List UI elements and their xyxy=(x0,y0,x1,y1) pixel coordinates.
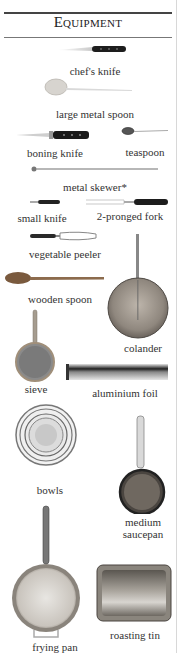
two-pronged-fork-icon xyxy=(84,197,170,207)
bowls-icon xyxy=(14,403,78,467)
roasting-tin-icon xyxy=(96,564,172,622)
label-frying-pan: frying pan xyxy=(25,641,85,653)
label-sieve: sieve xyxy=(20,383,52,395)
label-bowls: bowls xyxy=(30,484,70,496)
label-boning-knife: boning knife xyxy=(20,147,90,159)
label-colander: colander xyxy=(115,342,171,354)
label-two-pronged-fork: 2-pronged fork xyxy=(90,210,170,222)
sieve-icon xyxy=(14,308,56,383)
boning-knife-icon xyxy=(14,129,90,141)
label-teaspoon: teaspoon xyxy=(120,146,170,158)
label-roasting-tin: roasting tin xyxy=(100,629,170,641)
vegetable-peeler-icon xyxy=(30,231,100,241)
label-vegetable-peeler: vegetable peeler xyxy=(20,248,110,260)
chefs-knife-icon xyxy=(55,44,127,54)
medium-saucepan-icon xyxy=(115,414,171,514)
colander-icon xyxy=(106,232,170,342)
label-small-knife: small knife xyxy=(12,212,72,224)
teaspoon-icon xyxy=(120,126,170,136)
label-large-metal-spoon: large metal spoon xyxy=(40,108,150,120)
wooden-spoon-icon xyxy=(4,271,104,285)
label-medium-saucepan-line1: medium xyxy=(115,516,171,528)
label-aluminium-foil: aluminium foil xyxy=(85,387,165,399)
panel-edge xyxy=(176,0,177,653)
frying-pan-icon xyxy=(10,502,86,638)
title-rule xyxy=(4,37,172,38)
label-metal-skewer: metal skewer* xyxy=(55,181,135,193)
metal-skewer-icon xyxy=(30,166,160,172)
label-wooden-spoon: wooden spoon xyxy=(20,293,100,305)
aluminium-foil-icon xyxy=(66,362,170,382)
large-metal-spoon-icon xyxy=(44,78,134,98)
small-knife-icon xyxy=(30,199,62,205)
equipment-panel: Equipment chef's knife large metal spoon… xyxy=(0,0,176,653)
panel-title: Equipment xyxy=(0,14,176,31)
label-medium-saucepan-line2: saucepan xyxy=(115,528,171,540)
label-chefs-knife: chef's knife xyxy=(60,65,130,77)
